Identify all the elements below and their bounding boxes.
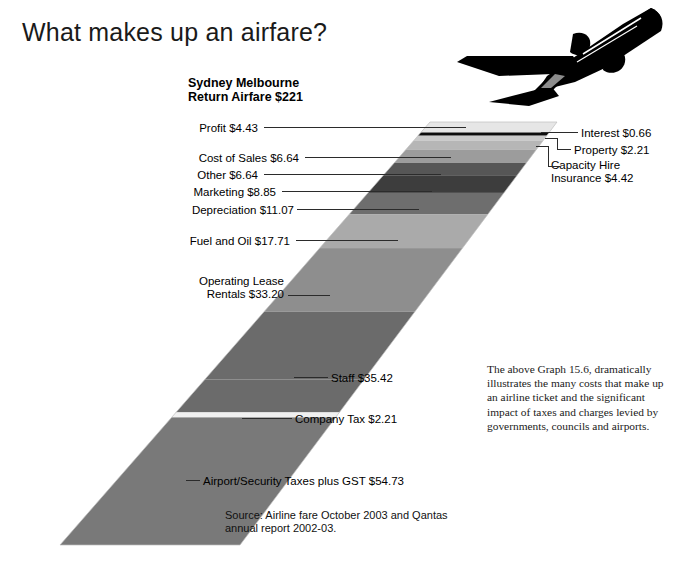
label-company-tax: Company Tax $2.21 [295,413,397,426]
leader-other [264,174,441,175]
leader-fuel-and-oil [296,240,398,241]
leader-interest [541,132,578,133]
label-depreciation: Depreciation $11.07 [192,204,294,217]
label-operating-lease-line-2: Rentals $33.20 [199,288,284,301]
source-note: Source: Airline fare October 2003 and Qa… [225,509,448,535]
leader-depreciation [297,209,419,210]
segment-depreciation [0,193,680,214]
label-airport-security-taxes: Airport/Security Taxes plus GST $54.73 [203,475,404,488]
leader-staff [294,377,328,378]
label-operating-lease-rentals: Operating Lease Rentals $33.20 [199,275,284,301]
segment-property [0,136,680,141]
segment-interest [0,133,680,136]
label-fuel-and-oil: Fuel and Oil $17.71 [190,235,290,248]
label-capacity-hire-line-1: Capacity Hire [551,159,633,172]
label-profit: Profit $4.43 [199,122,258,135]
label-property: Property $2.21 [574,144,649,157]
leader-company-tax [242,418,292,419]
source-line-2: annual report 2002-03. [225,522,448,535]
label-capacity-hire-line-2: Insurance $4.42 [551,172,633,185]
leader-capacity-hire-h [548,166,560,167]
leader-airport-security-taxes [186,480,200,481]
leader-profit [264,127,466,128]
source-line-1: Source: Airline fare October 2003 and Qa… [225,509,448,522]
label-marketing: Marketing $8.85 [194,186,276,199]
leader-cost-of-sales [305,157,451,158]
description-paragraph: The above Graph 15.6, dramatically illus… [487,362,667,433]
leader-capacity-hire-stub [536,146,549,147]
leader-operating-lease-rentals [288,295,330,296]
label-staff: Staff $35.42 [331,372,393,385]
leader-property-v [557,138,558,150]
infographic-canvas: What makes up an airfare? Sydney Melbour… [0,0,680,564]
label-capacity-hire-insurance: Capacity Hire Insurance $4.42 [551,159,633,185]
leader-marketing [282,191,432,192]
leader-property-stub [545,138,558,139]
segment-fuel-and-oil [0,214,680,248]
label-interest: Interest $0.66 [581,127,651,140]
label-other: Other $6.64 [197,169,258,182]
label-operating-lease-line-1: Operating Lease [199,275,284,288]
leader-property-h [557,149,571,150]
segment-operating-lease-rentals [0,248,680,312]
leader-capacity-hire-v [548,146,549,167]
label-cost-of-sales: Cost of Sales $6.64 [199,152,299,165]
